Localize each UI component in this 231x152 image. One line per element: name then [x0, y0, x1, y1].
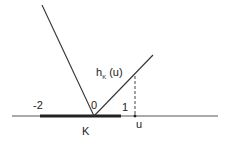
left-ray: [42, 5, 94, 116]
label-u: u: [136, 119, 142, 130]
label-zero: 0: [91, 100, 97, 111]
point-u-marker: [134, 115, 137, 118]
label-support-function: hK (u): [96, 67, 123, 80]
label-minus-two: -2: [33, 100, 43, 111]
label-one: 1: [122, 102, 128, 113]
label-h-argument: (u): [106, 66, 123, 78]
label-h-subscript: K: [102, 74, 106, 80]
label-K: K: [82, 126, 89, 137]
